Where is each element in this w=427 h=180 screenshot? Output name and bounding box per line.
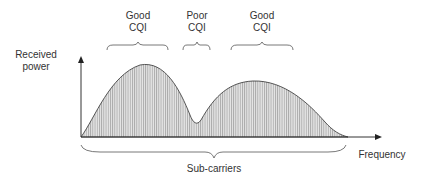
y-axis-label-line1: Received	[8, 49, 64, 61]
sub-carriers-label: Sub-carriers	[174, 163, 254, 175]
x-axis-arrow-icon	[375, 134, 382, 140]
region-label-line1: Poor	[172, 10, 222, 22]
region-label-line1: Good	[237, 10, 287, 22]
region-label-line2: CQI	[172, 22, 222, 34]
brace-poor-cqi	[183, 42, 210, 50]
region-label-line2: CQI	[113, 22, 163, 34]
brace-good-cqi-2	[231, 42, 293, 50]
region-label-good-cqi-1: Good CQI	[113, 10, 163, 34]
region-label-line1: Good	[113, 10, 163, 22]
brace-sub-carriers	[81, 145, 346, 158]
region-label-line2: CQI	[237, 22, 287, 34]
region-label-good-cqi-2: Good CQI	[237, 10, 287, 34]
received-power-curve	[81, 64, 348, 137]
x-axis-label: Frequency	[352, 149, 412, 161]
y-axis-label-line2: power	[8, 61, 64, 73]
brace-good-cqi-1	[107, 42, 168, 50]
y-axis-arrow-icon	[78, 56, 84, 63]
y-axis-label: Received power	[8, 49, 64, 73]
region-label-poor-cqi: Poor CQI	[172, 10, 222, 34]
